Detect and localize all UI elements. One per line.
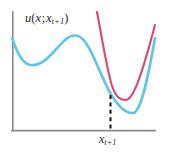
acquisition-function-label: u(x;xt+1) [25,12,68,26]
label-close-paren: ) [64,11,68,25]
acquisition-function-figure: u(x;xt+1) xt+1 [0,0,171,155]
acquisition-function-curve [12,35,155,113]
x-tick-label-next-sample: xt+1 [99,133,116,147]
xtick-subscript: t+1 [104,138,116,147]
label-param-subscript: t+1 [52,16,65,26]
